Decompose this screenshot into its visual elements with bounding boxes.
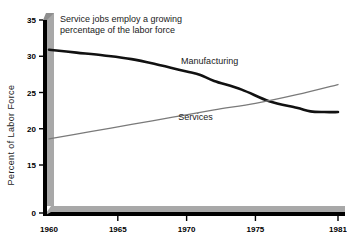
x-tick-label: 1970 bbox=[178, 225, 196, 234]
x-tick-label: 1981 bbox=[329, 225, 347, 234]
series-label-manufacturing: Manufacturing bbox=[181, 56, 238, 66]
axis-3d-base bbox=[44, 206, 345, 216]
series-label-services: Services bbox=[178, 112, 213, 122]
x-tick-label: 1965 bbox=[109, 225, 127, 234]
y-tick-label: 35 bbox=[27, 16, 36, 25]
floor-slab bbox=[51, 206, 345, 212]
series-annotations: ManufacturingServices bbox=[178, 56, 238, 122]
y-axis-title: Percent of Labor Force bbox=[6, 85, 16, 186]
y-tick-label: 0 bbox=[32, 209, 37, 218]
wall-slab bbox=[46, 13, 54, 206]
y-tick-label: 20 bbox=[27, 125, 36, 134]
axis-3d-wall bbox=[43, 13, 54, 216]
x-axis-ticks: 19601965197019751981 bbox=[40, 216, 347, 234]
chart-title-line-2: percentage of the labor force bbox=[60, 25, 175, 35]
x-tick-label: 1960 bbox=[40, 225, 58, 234]
x-tick-label: 1975 bbox=[247, 225, 265, 234]
y-tick-label: 15 bbox=[27, 161, 36, 170]
chart-container: 01520253035 19601965197019751981 Percent… bbox=[0, 0, 347, 252]
y-tick-label: 30 bbox=[27, 52, 36, 61]
chart-title-line-1: Service jobs employ a growing bbox=[60, 14, 182, 24]
y-tick-label: 25 bbox=[27, 89, 36, 98]
y-axis-ticks: 01520253035 bbox=[27, 16, 43, 218]
labor-force-line-chart: 01520253035 19601965197019751981 Percent… bbox=[0, 0, 347, 252]
wall-front-edge bbox=[43, 20, 47, 216]
